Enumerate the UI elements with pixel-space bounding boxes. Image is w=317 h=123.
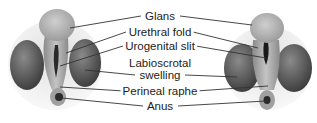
- label-glans: Glans: [143, 10, 177, 22]
- right-glans: [250, 13, 284, 43]
- right-anus: [264, 96, 271, 104]
- label-urethral-fold: Urethral fold: [127, 26, 194, 38]
- diagram-stage: Glans Urethral fold Urogenital slit Labi…: [0, 0, 317, 123]
- right-swelling-right: [276, 44, 312, 92]
- label-urogenital-slit: Urogenital slit: [123, 40, 197, 52]
- left-swelling-left: [10, 40, 44, 90]
- left-glans: [39, 9, 75, 41]
- label-labioscrotal: Labioscrotal: [127, 57, 193, 69]
- label-perineal-raphe: Perineal raphe: [121, 85, 200, 97]
- leader-glans-right: [180, 16, 252, 25]
- right-figure: [224, 13, 312, 110]
- left-figure: [8, 9, 102, 110]
- label-anus: Anus: [145, 100, 175, 112]
- label-swelling: swelling: [138, 69, 183, 81]
- left-anus: [55, 93, 63, 101]
